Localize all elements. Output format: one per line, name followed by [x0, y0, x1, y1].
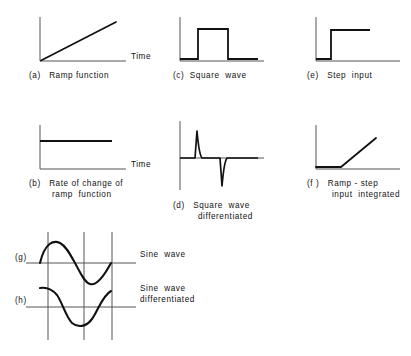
tag-panel-g: (g) — [15, 253, 27, 262]
caption-panel-b-line2: ramp function — [52, 189, 112, 201]
ramp-step-integrated-svg — [314, 124, 410, 172]
plot-ramp-function — [38, 16, 138, 64]
label-sine-differentiated-line1: Sine wave — [140, 283, 186, 295]
delayed-ramp-trace — [316, 138, 376, 167]
axis-label-time-a: Time — [131, 52, 151, 61]
ramp-trace — [41, 22, 116, 61]
caption-panel-c: (c) Square wave — [173, 70, 247, 82]
caption-panel-e: (e) Step input — [307, 70, 372, 82]
plot-step-input — [314, 16, 410, 64]
square-wave-trace — [180, 29, 258, 59]
step-input-svg — [314, 16, 410, 64]
caption-panel-d-line1: (d) Square wave — [173, 200, 250, 212]
caption-panel-b-line1: (b) Rate of change of — [29, 178, 123, 190]
panel-square-wave-differentiated: (d) Square wave differentiated — [178, 120, 278, 194]
plot-square-wave-differentiated — [178, 120, 278, 194]
rate-of-change-svg — [38, 124, 138, 172]
plot-square-wave — [178, 16, 278, 64]
impulse-pair-trace — [180, 131, 258, 186]
square-wave-differentiated-svg — [178, 120, 278, 194]
label-sine-differentiated-line2: differentiated — [140, 294, 195, 306]
panel-square-wave: (c) Square wave — [178, 16, 278, 64]
ramp-function-svg — [38, 16, 138, 64]
caption-panel-f-line2: input integrated — [332, 189, 400, 201]
tag-panel-h: (h) — [15, 296, 27, 305]
step-input-trace — [316, 30, 370, 59]
panel-sine-group: (g) (h) Sine wave Sine wave differentiat… — [14, 232, 204, 342]
panel-ramp-step-integrated: (f ) Ramp - step input integrated — [314, 124, 410, 172]
panel-ramp-function: Time (a) Ramp function — [38, 16, 138, 64]
label-sine-wave: Sine wave — [140, 249, 186, 261]
caption-panel-f-line1: (f ) Ramp - step — [307, 178, 378, 190]
panel-rate-of-change: Time (b) Rate of change of ramp function — [38, 124, 138, 172]
caption-panel-d-line2: differentiated — [198, 211, 253, 223]
square-wave-svg — [178, 16, 278, 64]
axis-label-time-b: Time — [131, 160, 151, 169]
plot-rate-of-change — [38, 124, 138, 172]
waveform-figure: Time (a) Ramp function (c) Square wave (… — [0, 0, 411, 356]
panel-step-input: (e) Step input — [314, 16, 410, 64]
caption-panel-a: (a) Ramp function — [29, 70, 109, 82]
plot-ramp-step-integrated — [314, 124, 410, 172]
